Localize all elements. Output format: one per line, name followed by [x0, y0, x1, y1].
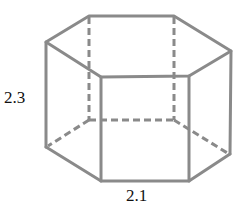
top-hexagon-face	[46, 16, 231, 77]
hidden-edge-bottom-left-back	[48, 120, 89, 146]
edge-right-vertical	[230, 51, 231, 154]
height-label: 2.3	[4, 88, 25, 108]
base-edge-label: 2.1	[126, 186, 147, 206]
hexagonal-prism-figure	[0, 0, 243, 211]
bottom-visible-edges	[46, 147, 230, 181]
hidden-edge-bottom-right-back	[174, 120, 229, 154]
